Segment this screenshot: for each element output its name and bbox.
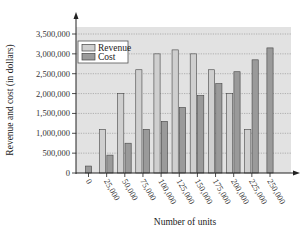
y-tick-label: 0 xyxy=(66,168,70,178)
bar-chart: 0500,0001,000,0001,500,0002,000,0002,500… xyxy=(0,0,308,230)
revenue-bar xyxy=(136,70,142,173)
x-tick-label: 50,000 xyxy=(120,177,140,202)
x-tick-label: 75,000 xyxy=(138,177,158,202)
x-tick-label: 25,000 xyxy=(102,177,122,202)
revenue-bar xyxy=(190,54,196,173)
revenue-bar xyxy=(118,94,124,173)
y-tick-label: 3,000,000 xyxy=(36,49,70,59)
cost-bar xyxy=(85,166,91,173)
y-axis-ticks: 0500,0001,000,0001,500,0002,000,0002,500… xyxy=(36,29,76,178)
cost-bar xyxy=(107,155,113,173)
y-tick-label: 2,500,000 xyxy=(36,69,70,79)
x-axis-ticks: 025,00050,00075,000100,000125,000150,000… xyxy=(84,173,288,206)
cost-bar xyxy=(161,121,167,173)
x-tick-label: 0 xyxy=(84,177,95,186)
revenue-bar xyxy=(227,94,233,173)
cost-bar xyxy=(125,143,131,173)
legend-cost-label: Cost xyxy=(98,52,116,62)
y-tick-label: 3,500,000 xyxy=(36,29,70,39)
cost-bar xyxy=(198,96,204,173)
y-tick-label: 1,000,000 xyxy=(36,128,70,138)
cost-bar xyxy=(179,107,185,173)
legend-cost-swatch xyxy=(82,54,95,61)
revenue-bar xyxy=(208,70,214,173)
y-axis-title: Revenue and cost (in dollars) xyxy=(5,44,16,155)
revenue-bar xyxy=(172,50,178,173)
y-tick-label: 2,000,000 xyxy=(36,89,70,99)
cost-bar xyxy=(216,84,222,173)
cost-bar xyxy=(252,60,258,173)
cost-bar xyxy=(267,48,273,173)
revenue-bar xyxy=(154,54,160,173)
y-tick-label: 1,500,000 xyxy=(36,108,70,118)
x-tick-label: 250,000 xyxy=(265,177,287,206)
x-axis-title: Number of units xyxy=(154,217,217,227)
y-tick-label: 500,000 xyxy=(42,148,70,158)
legend-revenue-swatch xyxy=(82,45,95,52)
cost-bar xyxy=(234,72,240,173)
y-axis-arrow-icon xyxy=(74,12,79,19)
revenue-bar xyxy=(245,129,251,173)
legend: Revenue Cost xyxy=(78,41,131,63)
cost-bar xyxy=(143,129,149,173)
x-axis-arrow-icon xyxy=(293,171,300,176)
revenue-bar xyxy=(99,129,105,173)
